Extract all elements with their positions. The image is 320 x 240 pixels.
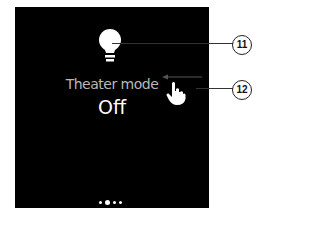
callout-line-12 xyxy=(196,88,233,89)
page-dot xyxy=(99,201,102,204)
callout-line-11 xyxy=(112,43,233,44)
hand-pointer-icon xyxy=(166,81,186,105)
tile-value: Off xyxy=(60,96,164,118)
page-dot-active xyxy=(105,200,110,205)
tile-title: Theater mode xyxy=(60,76,164,92)
page-indicator xyxy=(99,200,122,205)
lightbulb-icon[interactable] xyxy=(97,28,123,68)
swipe-arrow-icon xyxy=(162,74,202,80)
page-dot xyxy=(119,201,122,204)
callout-12: 12 xyxy=(232,80,252,100)
callout-11: 11 xyxy=(232,35,252,55)
page-dot xyxy=(113,201,116,204)
